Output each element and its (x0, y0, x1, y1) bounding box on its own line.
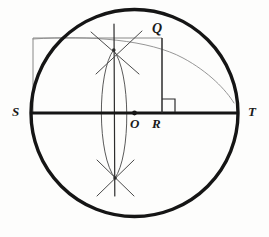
label-point-q: Q (152, 22, 162, 36)
label-point-o: O (130, 117, 139, 130)
geometry-figure-canvas: S T O R Q (0, 0, 269, 237)
label-point-r: R (152, 117, 161, 130)
compass-cross-ticks-top (91, 31, 142, 74)
right-angle-marker (162, 99, 175, 112)
label-point-s: S (12, 105, 19, 118)
thin-arc-through-q (33, 38, 234, 103)
center-point-dot (132, 111, 137, 116)
label-point-t: T (248, 105, 256, 118)
